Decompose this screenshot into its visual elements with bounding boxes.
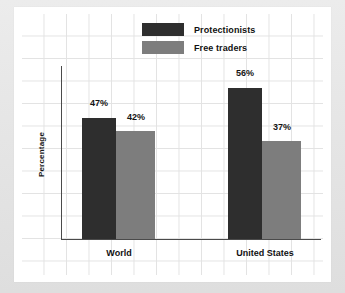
- chart-legend: Protectionists Free traders: [142, 22, 255, 58]
- bar-label-united-states-free-traders: 37%: [259, 122, 305, 132]
- y-axis-title: Percentage: [37, 110, 46, 200]
- chart-screenshot: Protectionists Free traders Percentage 4…: [0, 0, 345, 293]
- bar-united-states-protectionists: [228, 88, 262, 239]
- bar-united-states-free-traders: [262, 141, 301, 239]
- legend-label-protectionists: Protectionists: [194, 25, 255, 35]
- bar-label-world-free-traders: 42%: [113, 112, 159, 122]
- legend-swatch-free-traders: [142, 41, 184, 54]
- legend-item-free-traders: Free traders: [142, 40, 255, 55]
- x-axis-label-world: World: [74, 248, 164, 258]
- y-axis-line: [61, 66, 62, 240]
- bar-world-free-traders: [116, 131, 155, 239]
- bar-label-united-states-protectionists: 56%: [222, 68, 268, 78]
- x-axis-label-united-states: United States: [220, 248, 310, 258]
- legend-item-protectionists: Protectionists: [142, 22, 255, 37]
- bar-world-protectionists: [82, 118, 116, 239]
- bar-label-world-protectionists: 47%: [76, 98, 122, 108]
- plot-area: Protectionists Free traders Percentage 4…: [0, 0, 345, 293]
- x-axis-line: [61, 239, 321, 240]
- legend-label-free-traders: Free traders: [194, 43, 247, 53]
- legend-swatch-protectionists: [142, 23, 184, 36]
